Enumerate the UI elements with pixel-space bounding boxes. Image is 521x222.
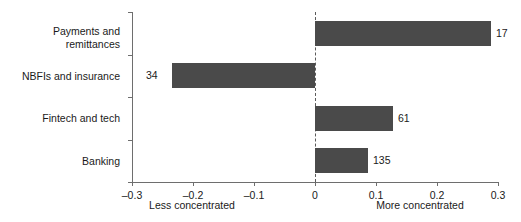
y-tick-label-payments-and-remittances: Payments and remittances bbox=[0, 25, 120, 50]
x-axis-tick bbox=[376, 182, 377, 186]
bar-nbfis-and-insurance bbox=[172, 63, 315, 88]
y-axis-tick-labels: Payments and remittances NBFIs and insur… bbox=[0, 12, 126, 182]
y-axis-spine bbox=[132, 12, 133, 182]
y-tick-label-nbfis-and-insurance: NBFIs and insurance bbox=[0, 70, 120, 83]
chart-figure: Type of institution Payments and remitta… bbox=[0, 0, 521, 222]
x-tick-label-0: 0 bbox=[295, 189, 335, 201]
plot-area: 17 34 61 135 –0.3 –0.2 –0.1 0 0.1 0.2 0.… bbox=[132, 12, 498, 182]
y-tick-label-banking: Banking bbox=[0, 155, 120, 168]
y-axis-tick bbox=[128, 12, 132, 13]
x-axis-tick bbox=[437, 182, 438, 186]
bar-value-label-fintech-and-tech: 61 bbox=[398, 106, 410, 131]
x-axis-tick bbox=[193, 182, 194, 186]
bar-value-label-banking: 135 bbox=[373, 148, 391, 173]
x-axis-tick bbox=[315, 182, 316, 186]
bar-value-label-payments-and-remittances: 17 bbox=[496, 21, 508, 46]
y-axis-tick bbox=[128, 140, 132, 141]
annotation-more-concentrated: More concentrated bbox=[340, 199, 500, 211]
bar-fintech-and-tech bbox=[315, 106, 393, 131]
bar-value-label-nbfis-and-insurance: 34 bbox=[146, 63, 158, 88]
x-axis-tick bbox=[254, 182, 255, 186]
bar-banking bbox=[315, 148, 368, 173]
y-axis-tick bbox=[128, 97, 132, 98]
x-axis-tick bbox=[132, 182, 133, 186]
annotation-less-concentrated: Less concentrated bbox=[112, 199, 272, 211]
x-axis-tick bbox=[498, 182, 499, 186]
bar-payments-and-remittances bbox=[315, 21, 491, 46]
y-tick-label-fintech-and-tech: Fintech and tech bbox=[0, 112, 120, 125]
y-axis-tick bbox=[128, 55, 132, 56]
